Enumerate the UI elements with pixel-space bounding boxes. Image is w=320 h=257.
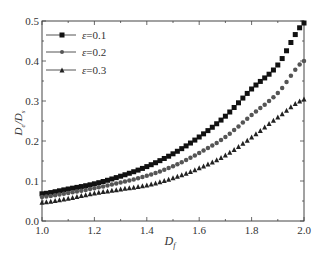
series-layer [40, 21, 307, 205]
y-tick-label: 0.1 [25, 175, 39, 187]
legend-label: ε=0.3 [82, 64, 107, 76]
y-tick-label: 0.3 [25, 95, 39, 107]
y-axis-ticks: 0.00.10.20.30.40.5 [25, 15, 304, 227]
y-tick-label: 0.5 [25, 15, 39, 27]
legend-item: ε=0.3 [46, 64, 107, 76]
x-tick-label: 2.0 [297, 224, 311, 236]
legend-item: ε=0.2 [46, 46, 106, 58]
x-tick-label: 1.4 [140, 224, 154, 236]
x-axis-label: Df [164, 234, 178, 250]
legend: ε=0.1ε=0.2ε=0.3 [46, 29, 107, 76]
y-tick-label: 0.4 [25, 55, 39, 67]
y-tick-label: 0.2 [25, 135, 39, 147]
chart: 1.01.21.41.61.82.0 0.00.10.20.30.40.5 ε=… [0, 0, 320, 257]
legend-label: ε=0.1 [82, 29, 106, 41]
x-tick-label: 1.8 [245, 224, 259, 236]
x-axis-ticks: 1.01.21.41.61.82.0 [35, 21, 311, 236]
legend-item: ε=0.1 [46, 29, 106, 41]
series-1 [40, 21, 307, 197]
x-tick-label: 1.2 [88, 224, 102, 236]
y-axis-label: De/Ds [12, 110, 27, 136]
x-tick-label: 1.6 [192, 224, 206, 236]
legend-label: ε=0.2 [82, 46, 106, 58]
y-tick-label: 0.0 [25, 215, 39, 227]
